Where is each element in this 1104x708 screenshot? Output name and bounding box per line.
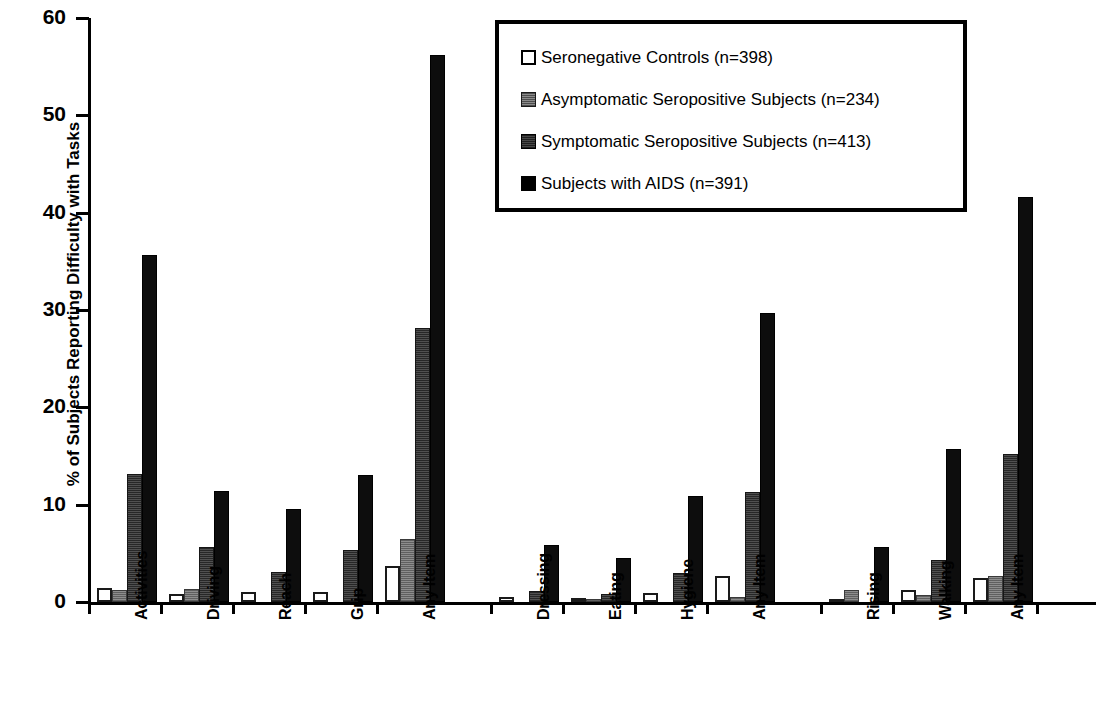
x-tick-4 xyxy=(376,602,379,614)
y-tick-label-0: 0 xyxy=(6,590,66,611)
x-tick-5 xyxy=(490,602,493,614)
legend-item-symptomatic: Symptomatic Seropositive Subjects (n=413… xyxy=(521,120,963,162)
y-tick-label-10: 10 xyxy=(6,493,66,514)
bar xyxy=(988,576,1003,602)
x-tick-2 xyxy=(232,602,235,614)
bar xyxy=(385,566,400,602)
x-category-label: Driving xyxy=(205,566,223,620)
x-tick-0 xyxy=(88,602,91,614)
legend-label-asymptomatic: Asymptomatic Seropositive Subjects (n=23… xyxy=(541,91,880,108)
x-category-label: Hygiene xyxy=(679,559,697,620)
y-tick-label-30: 30 xyxy=(6,298,66,319)
bar xyxy=(715,576,730,602)
x-tick-10 xyxy=(892,602,895,614)
x-category-label: Walking xyxy=(937,561,955,620)
x-tick-6 xyxy=(562,602,565,614)
x-tick-1 xyxy=(160,602,163,614)
x-tick-9 xyxy=(820,602,823,614)
x-tick-3 xyxy=(304,602,307,614)
bar xyxy=(241,592,256,602)
bar xyxy=(973,578,988,602)
bar xyxy=(901,590,916,602)
legend-item-asymptomatic: Asymptomatic Seropositive Subjects (n=23… xyxy=(521,78,963,120)
bar xyxy=(916,595,931,602)
x-tick-8 xyxy=(706,602,709,614)
y-tick-40 xyxy=(76,212,89,215)
legend-item-aids: Subjects with AIDS (n=391) xyxy=(521,162,963,204)
y-tick-label-40: 40 xyxy=(6,201,66,222)
bar xyxy=(358,475,373,602)
bar xyxy=(400,539,415,602)
bar xyxy=(169,594,184,602)
legend-swatch-asymptomatic-icon xyxy=(521,92,536,107)
legend-swatch-seronegative-icon xyxy=(521,50,536,65)
legend-label-aids: Subjects with AIDS (n=391) xyxy=(541,175,748,192)
bar xyxy=(184,589,199,602)
bar xyxy=(313,592,328,602)
legend-swatch-symptomatic-icon xyxy=(521,134,536,149)
x-category-label: Rising xyxy=(865,572,883,620)
bar xyxy=(112,590,127,602)
x-tick-11 xyxy=(964,602,967,614)
x-category-label: Eating xyxy=(607,572,625,620)
y-tick-label-50: 50 xyxy=(6,103,66,124)
x-tick-end xyxy=(1036,602,1039,614)
x-category-label: Any Item xyxy=(1009,554,1027,620)
bar xyxy=(97,588,112,602)
y-tick-30 xyxy=(76,309,89,312)
x-category-label: Grip xyxy=(349,588,367,620)
x-category-label: Activities xyxy=(133,551,151,620)
x-category-label: Any Item xyxy=(751,554,769,620)
bar-chart: % of Subjects Reporting Difficulty with … xyxy=(0,0,1104,708)
bar xyxy=(1018,197,1033,602)
legend-label-symptomatic: Symptomatic Seropositive Subjects (n=413… xyxy=(541,133,871,150)
legend-label-seronegative: Seronegative Controls (n=398) xyxy=(541,49,773,66)
x-tick-7 xyxy=(634,602,637,614)
y-axis-title: % of Subjects Reporting Difficulty with … xyxy=(64,4,84,604)
y-tick-10 xyxy=(76,504,89,507)
x-category-label: Reach xyxy=(277,573,295,620)
x-category-label: Any Item xyxy=(421,554,439,620)
y-tick-60 xyxy=(76,17,89,20)
legend-swatch-aids-icon xyxy=(521,176,536,191)
y-tick-20 xyxy=(76,406,89,409)
y-tick-label-60: 60 xyxy=(6,6,66,27)
bar xyxy=(430,55,445,602)
bar xyxy=(844,590,859,602)
bar xyxy=(643,593,658,602)
legend: Seronegative Controls (n=398) Asymptomat… xyxy=(495,20,967,212)
y-tick-label-20: 20 xyxy=(6,395,66,416)
x-category-label: Dressing xyxy=(535,553,553,620)
y-tick-50 xyxy=(76,114,89,117)
legend-item-seronegative: Seronegative Controls (n=398) xyxy=(521,36,963,78)
